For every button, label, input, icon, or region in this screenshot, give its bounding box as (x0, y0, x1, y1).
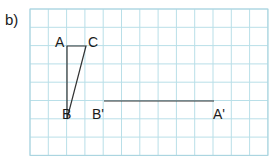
label-b-prime: B' (92, 107, 104, 121)
label-b: B (62, 107, 71, 121)
label-a-prime: A' (213, 107, 225, 121)
label-c: C (88, 35, 98, 49)
grid-diagram (0, 0, 274, 165)
label-a: A (55, 35, 64, 49)
